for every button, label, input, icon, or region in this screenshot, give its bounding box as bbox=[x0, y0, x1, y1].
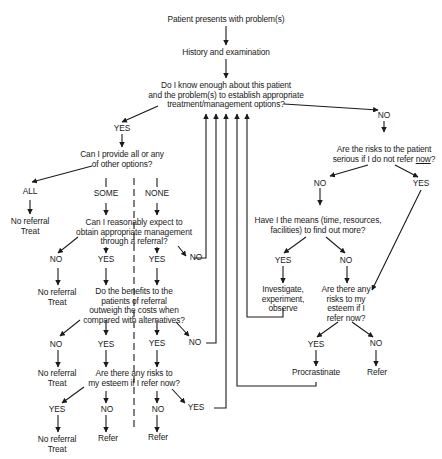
esteem-no-b: NO bbox=[152, 405, 164, 415]
means-no: NO bbox=[340, 256, 352, 266]
have-means-question: Have I the means (time, resources, facil… bbox=[255, 216, 382, 235]
benefit-yes-b: YES bbox=[149, 339, 165, 349]
serious-text: serious if I do not refer bbox=[333, 154, 416, 164]
esteem-result: No referral Treat bbox=[38, 435, 76, 454]
esteem-yes-right: YES bbox=[188, 403, 204, 413]
provide-options-question: Can I provide all or any of other option… bbox=[80, 150, 164, 169]
start-node: Patient presents with problem(s) bbox=[168, 15, 285, 25]
know-line-3: treatment/management options? bbox=[148, 100, 303, 110]
benefit-no-right: NO bbox=[189, 338, 201, 348]
expect-result: No referral Treat bbox=[38, 288, 76, 307]
yes-label-top: YES bbox=[114, 124, 130, 134]
esteem-right-no: NO bbox=[370, 339, 382, 349]
result-line-2: Treat bbox=[11, 227, 49, 237]
procrastinate-result: Procrastinate bbox=[292, 368, 340, 378]
benefit-no-left: NO bbox=[50, 340, 62, 350]
none-label: NONE bbox=[145, 189, 169, 199]
serious-yes: YES bbox=[413, 179, 429, 189]
question-mark: ? bbox=[431, 154, 436, 164]
now-underlined: now bbox=[416, 154, 431, 164]
means-yes: YES bbox=[275, 256, 291, 266]
result-line-2: Treat bbox=[38, 379, 76, 389]
expect-no-right: NO bbox=[190, 253, 202, 263]
esteem-right-yes: YES bbox=[308, 340, 324, 350]
investigate-line-3: observe bbox=[262, 304, 305, 314]
esteem-no-a: NO bbox=[101, 405, 113, 415]
some-label: SOME bbox=[94, 189, 118, 199]
result-line-2: Treat bbox=[38, 445, 76, 455]
serious-risk-question: Are the risks to the patient serious if … bbox=[333, 145, 436, 164]
referral-decision-flowchart: Patient presents with problem(s) History… bbox=[0, 0, 442, 459]
esteem-question-right: Are there any risks to my esteem if I re… bbox=[322, 285, 371, 323]
esteem-r-line-4: refer now? bbox=[322, 314, 371, 324]
esteem-question-left: Are there any risks to my esteem if I re… bbox=[88, 369, 180, 388]
serious-line-2: serious if I do not refer now? bbox=[333, 155, 436, 165]
refer-b: Refer bbox=[148, 433, 168, 443]
benefits-question: Do the benefits to the patients of refer… bbox=[83, 287, 185, 325]
serious-no: NO bbox=[314, 179, 326, 189]
benefit-result: No referral Treat bbox=[38, 369, 76, 388]
all-result: No referral Treat bbox=[11, 217, 49, 236]
no-label-top: NO bbox=[378, 111, 390, 121]
result-line-2: Treat bbox=[38, 298, 76, 308]
know-enough-question: Do I know enough about this patient and … bbox=[148, 81, 303, 110]
investigate-result: Investigate, experiment, observe bbox=[262, 285, 305, 314]
benefit-line-4: compared with alternatives? bbox=[83, 316, 185, 326]
refer-c: Refer bbox=[367, 368, 387, 378]
expect-no-left: NO bbox=[50, 255, 62, 265]
expect-yes-b: YES bbox=[149, 255, 165, 265]
esteem-yes-left: YES bbox=[49, 405, 65, 415]
all-label: ALL bbox=[23, 187, 38, 197]
esteem-line-2: my esteem if I refer now? bbox=[88, 379, 180, 389]
expect-line-3: through a referral? bbox=[76, 237, 192, 247]
provide-line-2: of other options? bbox=[80, 160, 164, 170]
benefit-yes-a: YES bbox=[98, 340, 114, 350]
history-node: History and examination bbox=[182, 48, 270, 58]
refer-a: Refer bbox=[98, 434, 118, 444]
expect-yes-a: YES bbox=[98, 255, 114, 265]
reasonably-expect-question: Can I reasonably expect to obtain approp… bbox=[76, 218, 192, 247]
means-line-2: facilities) to find out more? bbox=[255, 226, 382, 236]
